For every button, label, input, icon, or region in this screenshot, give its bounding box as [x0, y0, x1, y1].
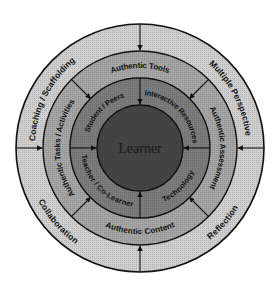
label-learner: Learner [118, 141, 162, 156]
learning-framework-diagram: Coaching / Scaffolding Multiple Perspect… [0, 0, 279, 295]
